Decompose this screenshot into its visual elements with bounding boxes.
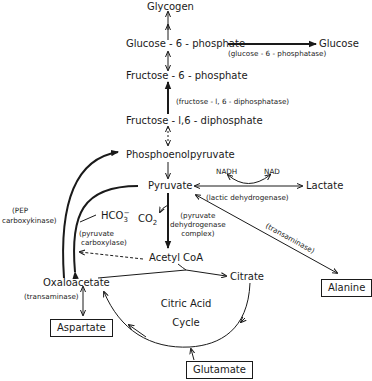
node-lactate: Lactate	[306, 181, 343, 191]
arrow-nadh-nad	[228, 175, 270, 184]
enzyme-pyruvate-carboxylase: (pyruvate carboxylase)	[79, 229, 127, 248]
node-alanine: Alanine	[321, 279, 372, 297]
enzyme-pyruvate-dehydrogenase-complex: (pyruvate dehydrogenase complex)	[170, 211, 226, 238]
node-co2: CO2	[138, 214, 157, 227]
arrow-co2	[160, 205, 168, 212]
node-glucose: Glucose	[319, 39, 359, 49]
node-aspartate: Aspartate	[50, 319, 113, 337]
enzyme-glucose-6-phosphatase: (glucose - 6 - phosphatase)	[228, 50, 326, 57]
node-glutamate: Glutamate	[186, 361, 253, 379]
node-acetyl-coa: Acetyl CoA	[149, 253, 203, 263]
arrow-oaa-to-citrate	[98, 270, 226, 278]
node-oxaloacetate: Oxaloacetate	[43, 278, 110, 288]
enzyme-transaminase-aspartate: (transaminase)	[24, 293, 79, 300]
node-nadh: NADH	[216, 168, 237, 175]
node-hco3: HCO3−	[101, 210, 130, 224]
label-citric-acid-cycle: Citric Acid Cycle	[154, 294, 218, 332]
node-fructose-6-phosphate: Fructose - 6 - phosphate	[126, 71, 248, 81]
node-glucose-6-phosphate: Glucose - 6 - phosphate	[126, 39, 245, 49]
arrow-glutamate-to-cycle	[191, 349, 194, 360]
enzyme-fructose-1-6-diphosphatase: (fructose - l, 6 - diphosphatase)	[176, 98, 289, 105]
node-pyruvate: Pyruvate	[148, 181, 193, 191]
node-fructose-1-6-diphosphate: Fructose - l,6 - diphosphate	[126, 116, 263, 126]
node-nad: NAD	[264, 168, 280, 175]
node-citrate: Citrate	[230, 272, 264, 282]
enzyme-pep-carboxykinase: (PEP carboxykinase)	[2, 206, 57, 226]
arrow-acetylcoa-to-oaa	[80, 252, 143, 259]
node-phosphoenolpyruvate: Phosphoenolpyruvate	[126, 150, 235, 160]
node-glycogen: Glycogen	[147, 2, 194, 12]
enzyme-lactic-dehydrogenase: (lactic dehydrogenase)	[206, 194, 289, 201]
